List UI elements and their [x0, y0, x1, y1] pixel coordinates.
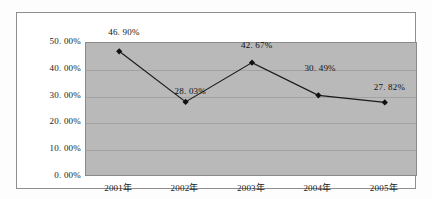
data-point-marker	[249, 60, 255, 66]
y-axis-tick-label: 30. 00%	[19, 90, 81, 100]
chart-outer-frame: 0. 00%10. 00%20. 00%30. 00%40. 00%50. 00…	[16, 12, 416, 189]
data-point-marker	[382, 99, 388, 105]
y-axis-tick-layer: 0. 00%10. 00%20. 00%30. 00%40. 00%50. 00…	[17, 42, 81, 176]
x-axis-tick-label: 2001年	[85, 181, 151, 194]
y-axis-tick-label: 50. 00%	[19, 36, 81, 46]
line-chart-figure: 0. 00%10. 00%20. 00%30. 00%40. 00%50. 00…	[0, 0, 432, 199]
data-point-marker	[315, 92, 321, 98]
x-axis-tick-layer: 2001年2002年2003年2004年2005年	[85, 181, 417, 197]
x-axis-tick-label: 2004年	[284, 181, 350, 194]
x-axis-tick-label: 2003年	[218, 181, 284, 194]
series-line-layer	[86, 43, 418, 177]
x-axis-tick-label: 2005年	[351, 181, 417, 194]
plot-area	[85, 42, 417, 176]
y-axis-tick-label: 40. 00%	[19, 63, 81, 73]
x-axis-tick-label: 2002年	[151, 181, 217, 194]
y-axis-tick-label: 0. 00%	[19, 170, 81, 180]
y-axis-tick-label: 20. 00%	[19, 116, 81, 126]
y-axis-tick-label: 10. 00%	[19, 143, 81, 153]
series-line	[119, 51, 385, 102]
